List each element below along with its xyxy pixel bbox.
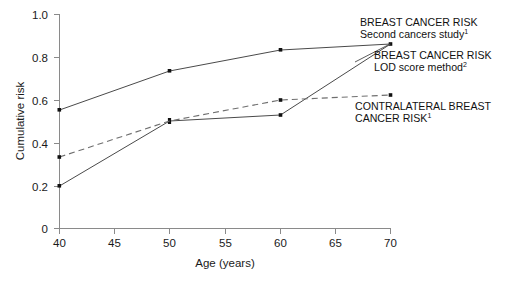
data-point-60 [279,48,283,52]
x-tick-label-2: 50 [163,237,176,249]
x-tick-label-5: 65 [329,237,342,249]
annotation-lod-score-line1: BREAST CANCER RISK [374,49,492,61]
annotation-contralateral-text: CANCER RISK [355,112,427,124]
chart-figure: 1.0 0.8 0.6 0.4 0.2 0 Cumulative risk 40… [0,0,518,283]
annotation-lod-score-superscript: 2 [463,61,467,68]
annotation-lod-score-line2: LOD score method2 [374,61,467,73]
annotation-second-cancers-superscript: 1 [464,28,468,35]
x-tick-label-0: 40 [53,237,66,249]
data-point-40 [58,108,62,112]
data-point-70 [389,93,393,97]
x-tick-label-3: 55 [219,237,232,249]
data-point-60 [279,113,283,117]
y-tick-label-4: 0.8 [32,52,48,64]
y-tick-label-0: 0 [42,223,48,235]
y-tick-label-1: 0.2 [32,181,48,193]
x-tick-label-6: 70 [384,237,397,249]
annotation-contralateral-line2: CANCER RISK1 [355,112,431,124]
annotation-contralateral-line1: CONTRALATERAL BREAST [355,100,492,112]
y-axis-title: Cumulative risk [14,81,26,160]
chart-background [0,0,518,283]
data-point-40 [58,155,62,159]
annotation-second-cancers-text: Second cancers study [360,28,465,40]
y-tick-label-3: 0.6 [32,95,48,107]
annotation-second-cancers-line2: Second cancers study1 [360,28,468,40]
x-axis-title: Age (years) [195,257,255,269]
annotation-second-cancers: BREAST CANCER RISK Second cancers study1 [360,16,478,40]
annotation-second-cancers-line1: BREAST CANCER RISK [360,16,478,28]
data-point-60 [279,98,283,102]
y-tick-label-5: 1.0 [32,9,48,21]
chart-svg: 1.0 0.8 0.6 0.4 0.2 0 Cumulative risk 40… [0,0,518,283]
data-point-40 [58,184,62,188]
annotation-lod-score-text: LOD score method [374,61,463,73]
x-tick-label-4: 60 [274,237,287,249]
data-point-50 [168,69,172,73]
x-tick-label-1: 45 [108,237,121,249]
annotation-contralateral-superscript: 1 [427,112,431,119]
y-tick-label-2: 0.4 [32,138,49,150]
